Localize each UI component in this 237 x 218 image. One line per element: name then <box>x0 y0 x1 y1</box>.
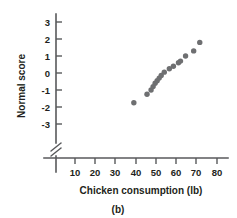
data-point <box>178 58 183 63</box>
data-point <box>162 69 167 74</box>
x-axis-title: Chicken consumption (lb) <box>80 185 203 196</box>
y-axis: 3 2 1 0 -1 -2 -3 <box>42 14 62 143</box>
y-axis-title: Normal score <box>16 54 27 118</box>
y-tick-label-2: 2 <box>45 34 50 45</box>
x-tick-label-50: 50 <box>151 167 162 178</box>
data-point <box>144 92 149 97</box>
scatter-plot: 3 2 1 0 -1 -2 -3 10 20 3 <box>0 0 237 218</box>
x-axis: 10 20 30 40 50 60 70 80 <box>44 158 228 178</box>
figure-container: 3 2 1 0 -1 -2 -3 10 20 3 <box>0 0 237 218</box>
x-tick-label-80: 80 <box>212 167 223 178</box>
data-point <box>191 48 196 53</box>
axis-break-icon <box>51 143 61 156</box>
x-tick-label-30: 30 <box>110 167 121 178</box>
x-tick-label-20: 20 <box>90 167 101 178</box>
data-point <box>131 100 136 105</box>
x-tick-label-70: 70 <box>191 167 202 178</box>
y-tick-label-3: 3 <box>45 17 50 28</box>
x-tick-label-60: 60 <box>171 167 182 178</box>
data-point <box>197 40 202 45</box>
x-tick-label-40: 40 <box>131 167 142 178</box>
x-tick-label-10: 10 <box>70 167 81 178</box>
y-tick-label-0: 0 <box>45 68 50 79</box>
y-tick-label-neg2: -2 <box>42 102 50 113</box>
data-point-layer <box>131 40 202 106</box>
y-tick-label-1: 1 <box>45 51 51 62</box>
y-tick-label-neg3: -3 <box>42 119 50 130</box>
data-point <box>171 63 176 68</box>
y-tick-label-neg1: -1 <box>42 85 51 96</box>
figure-caption: (b) <box>112 204 125 215</box>
data-point <box>183 53 188 58</box>
